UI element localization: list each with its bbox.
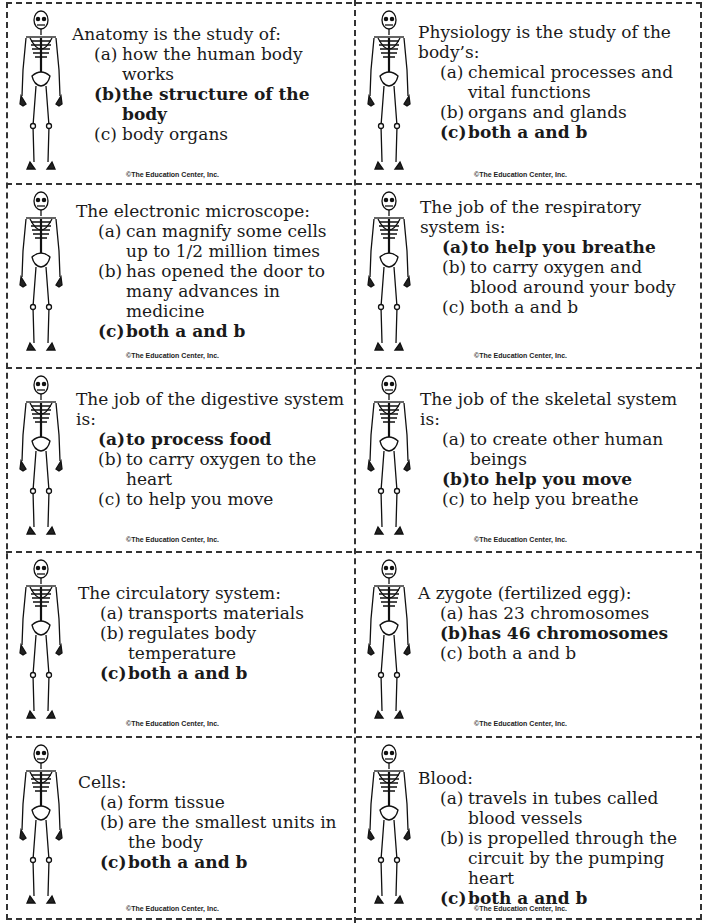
option-label: (a) [442,237,470,257]
skeleton-icon [364,742,414,912]
option-label: (b) [442,257,470,297]
option-text: body organs [122,124,346,144]
option-label: (b) [442,469,470,489]
copyright-notice: ©The Education Center, Inc. [126,905,219,912]
option-label: (b) [440,102,468,122]
flashcard: A zygote (fertilized egg):(a)has 23 chro… [356,553,700,733]
flashcard: The job of the skeletal system is:(a)to … [356,369,700,549]
card-content: Anatomy is the study of:(a)how the human… [72,24,346,144]
skeleton-icon [16,742,66,912]
card-content: Physiology is the study of the body’s:(a… [418,22,694,142]
card-content: The circulatory system:(a)transports mat… [78,583,346,683]
option-text: has 46 chromosomes [468,623,694,643]
answer-option: (b)organs and glands [418,102,694,122]
option-text: to help you move [126,489,346,509]
answer-option-correct: (b)the structure of the body [72,84,346,124]
card-content: The electronic microscope:(a)can magnify… [76,201,346,341]
option-text: both a and b [128,663,346,683]
answer-option: (a)how the human body works [72,44,346,84]
option-text: both a and b [470,297,694,317]
option-text: both a and b [468,643,694,663]
answer-option: (b)to carry oxygen to the heart [76,449,346,489]
card-content: The job of the digestive system is:(a)to… [76,389,346,509]
question-text: Anatomy is the study of: [72,24,346,44]
skeleton-icon [16,8,66,178]
answer-option: (a)travels in tubes called blood vessels [418,788,694,828]
answer-option: (b)is propelled through the circuit by t… [418,828,694,888]
option-text: has 23 chromosomes [468,603,694,623]
option-label: (c) [100,852,128,872]
answer-option: (a)has 23 chromosomes [418,603,694,623]
question-text: The electronic microscope: [76,201,346,221]
option-text: to carry oxygen to the heart [126,449,346,489]
answer-option: (a)chemical processes and vital function… [418,62,694,102]
flashcard: Cells:(a)form tissue(b)are the smallest … [8,738,352,918]
answer-option: (a)transports materials [78,603,346,623]
option-label: (c) [440,643,468,663]
copyright-notice: ©The Education Center, Inc. [474,352,567,359]
answer-option-correct: (c)both a and b [418,122,694,142]
question-text: Physiology is the study of the body’s: [418,22,694,62]
option-label: (c) [442,489,470,509]
option-label: (a) [100,792,128,812]
answer-option-correct: (c)both a and b [76,321,346,341]
option-label: (c) [100,663,128,683]
card-content: A zygote (fertilized egg):(a)has 23 chro… [418,583,694,663]
option-text: travels in tubes called blood vessels [468,788,694,828]
question-text: The circulatory system: [78,583,346,603]
answer-option: (b)to carry oxygen and blood around your… [420,257,694,297]
option-label: (a) [98,221,126,261]
option-text: form tissue [128,792,346,812]
question-text: The job of the skeletal system is: [420,389,694,429]
answer-option: (a)to create other human beings [420,429,694,469]
option-text: can magnify some cells up to 1/2 million… [126,221,346,261]
copyright-notice: ©The Education Center, Inc. [474,905,567,912]
skeleton-icon [16,557,66,727]
copyright-notice: ©The Education Center, Inc. [126,720,219,727]
option-label: (b) [98,449,126,489]
card-content: Cells:(a)form tissue(b)are the smallest … [78,772,346,872]
skeleton-icon [16,373,66,543]
flashcard: The electronic microscope:(a)can magnify… [8,185,352,365]
option-label: (a) [100,603,128,623]
option-text: to help you breathe [470,489,694,509]
skeleton-icon [364,373,414,543]
option-text: are the smallest units in the body [128,812,346,852]
skeleton-icon [364,189,414,359]
copyright-notice: ©The Education Center, Inc. [474,720,567,727]
option-text: to help you move [470,469,694,489]
answer-option: (c)both a and b [420,297,694,317]
card-content: Blood:(a)travels in tubes called blood v… [418,768,694,908]
option-text: organs and glands [468,102,694,122]
answer-option: (a)form tissue [78,792,346,812]
answer-option-correct: (b)has 46 chromosomes [418,623,694,643]
answer-option: (b)are the smallest units in the body [78,812,346,852]
answer-option-correct: (b)to help you move [420,469,694,489]
question-text: A zygote (fertilized egg): [418,583,694,603]
card-content: The job of the skeletal system is:(a)to … [420,389,694,509]
option-label: (b) [94,84,122,124]
answer-option: (c)both a and b [418,643,694,663]
option-label: (c) [440,888,468,908]
option-text: both a and b [468,122,694,142]
card-content: The job of the respiratory system is:(a)… [420,197,694,317]
option-text: regulates body temperature [128,623,346,663]
answer-option-correct: (a)to help you breathe [420,237,694,257]
flashcard: Physiology is the study of the body’s:(a… [356,4,700,184]
question-text: Cells: [78,772,346,792]
option-label: (b) [440,828,468,888]
option-label: (a) [442,429,470,469]
question-text: Blood: [418,768,694,788]
option-text: both a and b [128,852,346,872]
option-label: (a) [94,44,122,84]
answer-option: (c)to help you breathe [420,489,694,509]
skeleton-icon [16,189,66,359]
option-text: how the human body works [122,44,346,84]
option-text: to process food [126,429,346,449]
copyright-notice: ©The Education Center, Inc. [126,352,219,359]
option-text: transports materials [128,603,346,623]
answer-option-correct: (a)to process food [76,429,346,449]
option-label: (a) [440,62,468,102]
answer-option-correct: (c)both a and b [78,663,346,683]
option-label: (c) [440,122,468,142]
